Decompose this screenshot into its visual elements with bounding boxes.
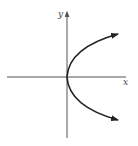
parabola-diagram: y x — [0, 0, 138, 146]
parabola-upper-branch — [67, 34, 118, 77]
x-axis-label: x — [123, 77, 128, 87]
parabola-lower-branch — [67, 77, 118, 120]
y-axis-label: y — [57, 9, 64, 19]
